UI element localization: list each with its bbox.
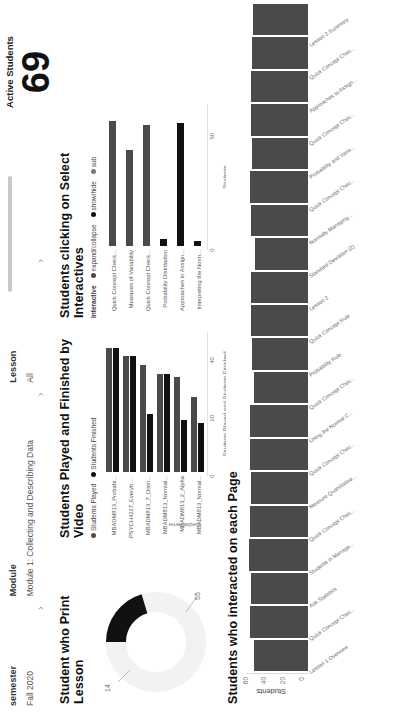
interactives-bar[interactable]	[160, 239, 167, 246]
interactives-bar-group	[139, 104, 156, 246]
video-bar-played[interactable]	[174, 377, 180, 472]
pages-bar[interactable]	[250, 506, 308, 537]
pages-bar[interactable]	[250, 606, 308, 637]
pages-title: Students who interacted on each Page	[226, 4, 240, 704]
interactives-x-axis: 050	[207, 104, 222, 250]
video-x-tick: 20	[209, 415, 215, 422]
interactives-bar-row[interactable]: Quick Concept Check...	[139, 104, 156, 318]
legend-sub[interactable]: sub	[90, 157, 97, 174]
pages-bar[interactable]	[251, 472, 308, 503]
legend-label-expand-collapse: expand/collapse	[90, 224, 97, 271]
interactives-bar-row[interactable]: Interpreting the Norm...	[190, 104, 207, 318]
pages-category-label: Probability and Varia...	[308, 144, 356, 180]
interactives-category-label: Probability Distribution	[162, 246, 168, 318]
interactives-bar-row[interactable]: Measures of Variability	[122, 104, 139, 318]
video-title: Students Played and Finished by Video	[58, 332, 86, 538]
pages-bar[interactable]	[250, 171, 308, 202]
video-bar-row[interactable]: PSYCH4227_Everybo...	[122, 332, 139, 538]
pages-bar[interactable]	[249, 539, 308, 570]
video-x-tick: 0	[209, 474, 215, 477]
chevron-right-icon-semester[interactable]: ›	[34, 606, 46, 610]
interactives-bar-chart: Quick Concept Check...Measures of Variab…	[105, 104, 228, 318]
card-pages: Students who interacted on each Page Stu…	[226, 4, 392, 704]
interactives-bar-row[interactable]: Quick Concept Check...	[105, 104, 122, 318]
interactives-bar[interactable]	[126, 150, 133, 246]
filter-lesson[interactable]: Lesson All	[8, 263, 48, 383]
legend-students-finished[interactable]: Students Finished	[90, 418, 97, 477]
dashboard-rotated-canvas: semester Fall 2020 › Module Module 1: Co…	[0, 0, 397, 716]
pages-bar[interactable]	[251, 205, 308, 236]
video-bar-played[interactable]	[123, 356, 129, 472]
filter-semester[interactable]: semester Fall 2020	[8, 610, 48, 706]
legend-expand-collapse[interactable]: expand/collapse	[90, 224, 97, 278]
legend-dot-expand-collapse	[91, 273, 96, 278]
pages-bar[interactable]	[251, 573, 308, 604]
interactives-rows: Quick Concept Check...Measures of Variab…	[105, 104, 207, 318]
video-bar-row[interactable]: MBADM813_7_Distri...	[139, 332, 156, 538]
video-category-label: MBADM813_Probabi...	[111, 472, 117, 538]
pages-bar[interactable]	[252, 138, 308, 169]
video-bar-played[interactable]	[191, 397, 197, 472]
video-rows: MBADM813_Probabi...PSYCH4227_Everybo...M…	[105, 332, 207, 538]
donut-value-not-printed: 55	[194, 592, 201, 600]
interactives-x-tick: 0	[209, 248, 215, 251]
interactives-x-tick: 50	[209, 133, 215, 140]
legend-show-hide[interactable]: show/hide	[90, 181, 97, 217]
interactives-bar-row[interactable]: Approaches to Assign...	[173, 104, 190, 318]
interactives-bar[interactable]	[109, 121, 116, 246]
pages-bar[interactable]	[250, 439, 308, 470]
pages-category-label: Approaches to Assign...	[308, 77, 358, 114]
video-category-label: MBADM813_2_Alpha	[179, 472, 185, 538]
pages-bar[interactable]	[251, 272, 308, 303]
pages-y-tick: 20	[279, 673, 286, 684]
video-bar-finished[interactable]	[164, 374, 170, 472]
pages-bar[interactable]	[255, 238, 308, 269]
pages-bar[interactable]	[252, 338, 308, 369]
kpi-label: Active Students	[4, 12, 15, 132]
video-x-tick: 40	[209, 357, 215, 364]
pages-category-label: Quick Concept Chec...	[308, 507, 356, 543]
video-bar-played[interactable]	[140, 365, 146, 472]
video-bar-finished[interactable]	[113, 348, 119, 472]
legend-students-played[interactable]: Students Played	[90, 484, 97, 538]
video-bar-finished[interactable]	[147, 414, 153, 472]
pages-bar[interactable]	[252, 37, 308, 68]
chevron-right-icon-module[interactable]: ›	[34, 393, 46, 397]
video-bar-row[interactable]: MBADM813_Normal...	[156, 332, 173, 538]
video-bar-row[interactable]: MBADM813_Normal...	[190, 332, 207, 538]
legend-dot-played	[91, 533, 96, 538]
video-bar-played[interactable]	[106, 348, 112, 472]
pages-category-label: Probability Rule	[308, 351, 342, 378]
kpi-value: 69	[17, 12, 57, 132]
pages-bar[interactable]	[254, 372, 308, 403]
pages-y-axis-title: Students	[256, 687, 286, 696]
pages-bar[interactable]	[251, 104, 308, 135]
video-bar-finished[interactable]	[181, 420, 187, 472]
pages-bar[interactable]	[250, 405, 308, 436]
interactives-category-label: Quick Concept Check...	[111, 246, 117, 318]
video-category-label: MBADM813_Normal...	[162, 472, 168, 538]
pages-bar[interactable]	[253, 4, 308, 35]
video-bar-finished[interactable]	[130, 356, 136, 472]
pages-bar[interactable]	[254, 640, 308, 671]
filter-module[interactable]: Module Module 1: Collecting and Describi…	[8, 396, 48, 596]
filter-lesson-value: All	[25, 263, 35, 383]
video-bar-row[interactable]: MBADM813_Probabi...	[105, 332, 122, 538]
donut-svg	[96, 584, 214, 704]
interactives-bar[interactable]	[143, 125, 150, 246]
interactives-category-label: Measures of Variability	[128, 246, 134, 318]
interactives-bar[interactable]	[194, 241, 201, 246]
interactives-bar-row[interactable]: Probability Distribution	[156, 104, 173, 318]
video-category-label: MBADM813_Normal...	[196, 472, 202, 538]
pages-bar[interactable]	[251, 305, 308, 336]
video-bar-played[interactable]	[157, 374, 163, 472]
interactives-category-label: Approaches to Assign...	[179, 246, 185, 318]
video-category-label: PSYCH4227_Everybo...	[128, 472, 134, 538]
chevron-right-icon-lesson[interactable]: ›	[34, 259, 46, 263]
video-bar-row[interactable]: MBADM813_2_Alpha	[173, 332, 190, 538]
pages-bar[interactable]	[251, 71, 308, 102]
video-bar-finished[interactable]	[198, 423, 204, 472]
pages-category-label: Standard Deviation (2)	[308, 243, 356, 279]
legend-dot-finished	[91, 472, 96, 477]
interactives-bar[interactable]	[177, 123, 184, 246]
